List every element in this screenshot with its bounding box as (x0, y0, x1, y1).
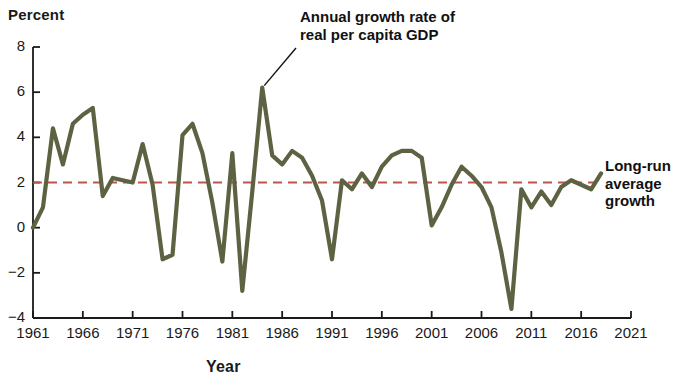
y-tick-label: 2 (1, 173, 25, 190)
average-annotation-label: Long-run average growth (605, 157, 671, 210)
tick-marks (33, 47, 631, 318)
y-axis-title: Percent (8, 6, 64, 23)
x-tick-label: 2001 (409, 324, 455, 341)
axes (33, 47, 631, 318)
x-tick-label: 2021 (608, 324, 654, 341)
x-tick-label: 1986 (259, 324, 305, 341)
series-annotation-leader-line (264, 48, 296, 86)
series-annotation-label: Annual growth rate of real per capita GD… (300, 8, 455, 43)
x-tick-label: 1966 (60, 324, 106, 341)
y-tick-label: −4 (1, 308, 25, 325)
gdp-growth-chart: Percent Year Annual growth rate of real … (0, 0, 698, 388)
x-tick-label: 2006 (459, 324, 505, 341)
x-tick-label: 1996 (359, 324, 405, 341)
x-tick-label: 1981 (209, 324, 255, 341)
x-tick-label: 2016 (558, 324, 604, 341)
y-tick-label: 4 (1, 127, 25, 144)
x-tick-label: 2011 (508, 324, 554, 341)
gdp-growth-line (33, 88, 601, 309)
y-tick-label: 0 (1, 218, 25, 235)
x-axis-title: Year (206, 358, 241, 376)
y-tick-label: −2 (1, 263, 25, 280)
x-tick-label: 1991 (309, 324, 355, 341)
y-tick-label: 8 (1, 37, 25, 54)
y-tick-label: 6 (1, 82, 25, 99)
x-tick-label: 1971 (110, 324, 156, 341)
x-tick-label: 1961 (10, 324, 56, 341)
x-tick-label: 1976 (160, 324, 206, 341)
